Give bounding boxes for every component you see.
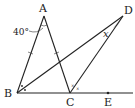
segment-AC (44, 16, 70, 93)
point-E-dot (107, 92, 110, 95)
geometry-figure: × × A B C D E 40° x (0, 0, 135, 108)
label-A: A (38, 2, 48, 15)
segment-CD (70, 16, 123, 93)
angle-B-dot-lower (24, 89, 26, 91)
angle-A-value: 40° (13, 27, 29, 37)
label-B: B (4, 87, 12, 100)
angle-B-dot-upper (21, 85, 23, 87)
angle-D-variable: x (103, 28, 109, 39)
angle-A-arc (41, 25, 47, 26)
label-C: C (66, 96, 74, 108)
label-E: E (104, 96, 112, 108)
angle-C-mark-1: × (71, 83, 74, 88)
angle-A-leader (29, 28, 43, 32)
angle-C-mark-2: × (76, 86, 79, 91)
label-D: D (124, 4, 133, 17)
